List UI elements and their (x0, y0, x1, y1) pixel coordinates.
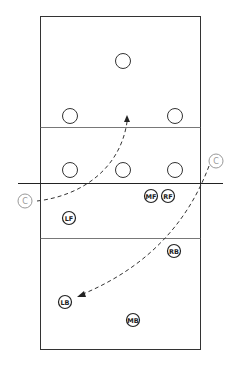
player-label: MB (127, 317, 138, 325)
opponent-positions (63, 54, 183, 178)
opponent-marker (168, 163, 183, 178)
coach-label: C (213, 157, 219, 166)
opponent-marker (63, 163, 78, 178)
player-MF: MF (145, 190, 158, 203)
player-RF: RF (162, 190, 175, 203)
arrowhead-left-icon (77, 291, 86, 297)
player-MB: MB (127, 314, 140, 327)
volleyball-court-diagram: MF RF LF RB LB MB C C (0, 0, 236, 369)
player-label: LB (60, 299, 69, 307)
player-label: LF (65, 215, 74, 223)
player-LF: LF (63, 212, 76, 225)
arrowhead-up-icon (124, 115, 130, 122)
coach-right-path (83, 166, 209, 294)
opponent-marker (168, 109, 183, 124)
opponent-marker (116, 54, 131, 69)
coach-label: C (22, 197, 28, 206)
opponent-marker (116, 163, 131, 178)
coach-left: C (18, 194, 32, 208)
coach-left-path (37, 122, 127, 201)
opponent-marker (63, 109, 78, 124)
coach-right: C (209, 154, 223, 168)
player-label: RF (163, 193, 172, 201)
player-label: MF (146, 193, 157, 201)
player-RB: RB (168, 245, 181, 258)
player-LB: LB (59, 296, 72, 309)
player-label: RB (169, 248, 179, 256)
